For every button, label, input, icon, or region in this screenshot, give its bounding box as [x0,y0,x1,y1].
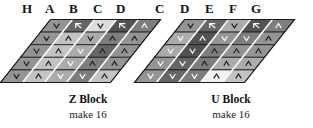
z-block-grid [8,16,156,90]
u-block-group: C D E F G U Block make 16 [148,0,313,128]
fabric-label-f2: F [229,1,237,16]
fabric-label-e2: E [205,1,214,16]
fabric-label-d2: D [180,1,190,16]
z-block-title: Z Block [28,92,148,106]
fabric-label-h: H [22,1,32,16]
fabric-label-c2: C [155,1,165,16]
fabric-label-b: B [69,1,78,16]
z-block-fabric-labels: H A B C D [0,1,160,17]
z-block-subtitle: make 16 [28,107,148,121]
z-block-caption: Z Block make 16 [28,92,148,121]
u-block-fabric-labels: C D E F G [148,1,313,17]
z-block-group: H A B C D Z Block make 16 [0,0,160,128]
u-block-title: U Block [171,92,291,106]
u-block-grid [142,16,290,90]
u-block-svg [142,16,290,92]
fabric-label-d: D [116,1,126,16]
fabric-label-c: C [93,1,103,16]
z-block-svg [8,16,156,92]
fabric-label-g2: G [251,1,261,16]
figure-canvas: H A B C D Z Block make 16 C D E F G U Bl… [0,0,313,128]
u-block-caption: U Block make 16 [171,92,291,121]
fabric-label-a: A [45,1,55,16]
u-block-subtitle: make 16 [171,107,291,121]
